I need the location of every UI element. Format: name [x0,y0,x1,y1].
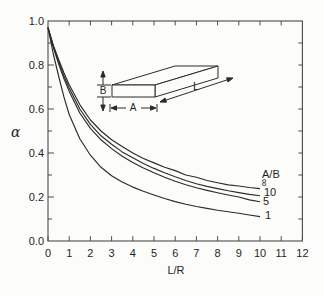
inset-dim-A-arrow-right-icon [151,106,157,110]
inset-label-B: B [98,85,108,96]
y-axis-label: α [11,124,20,140]
inset-label-A: A [126,102,140,113]
y-tick-label-0.6: 0.6 [20,103,44,115]
x-tick-label-5: 5 [143,247,165,259]
x-tick-label-0: 0 [37,247,59,259]
inset-dim-A-arrow-left-icon [111,106,117,110]
x-tick-label-3: 3 [101,247,123,259]
y-tick-label-0.2: 0.2 [20,191,44,203]
curve-ab-1 [48,28,260,217]
inset-label-L: L [190,80,202,92]
plot-frame [48,21,302,241]
inset-dim-L-arrow-upper-icon [227,78,233,82]
x-tick-label-9: 9 [228,247,250,259]
curve-ab-5 [48,28,260,202]
x-tick-label-10: 10 [249,247,271,259]
x-tick-label-7: 7 [185,247,207,259]
legend-entry-1: 1 [265,209,271,221]
y-tick-label-1.0: 1.0 [20,15,44,27]
inset-diagram [97,66,233,112]
y-tick-label-0.8: 0.8 [20,59,44,71]
x-tick-label-11: 11 [270,247,292,259]
legend-entry-5: 5 [263,195,269,207]
inset-dim-L-arrow-lower-icon [160,98,166,102]
x-tick-label-2: 2 [79,247,101,259]
y-tick-label-0.4: 0.4 [20,147,44,159]
x-tick-label-1: 1 [58,247,80,259]
x-tick-label-8: 8 [207,247,229,259]
figure-canvas: α L/R A/B ∞ 10 5 1 B A L 1.00.80.60.40.2… [0,0,324,296]
inset-slab-front-face [112,85,155,97]
axis-ticks [48,21,302,241]
x-tick-label-4: 4 [122,247,144,259]
curves [48,28,260,217]
curve-ab-10 [48,28,260,196]
x-tick-label-12: 12 [291,247,313,259]
inset-dim-B-arrow-down-icon [101,105,105,111]
y-tick-label-0.0: 0.0 [20,235,44,247]
inset-dim-B-arrow-up-icon [101,71,105,77]
x-axis-label: L/R [162,264,190,276]
x-tick-label-6: 6 [164,247,186,259]
